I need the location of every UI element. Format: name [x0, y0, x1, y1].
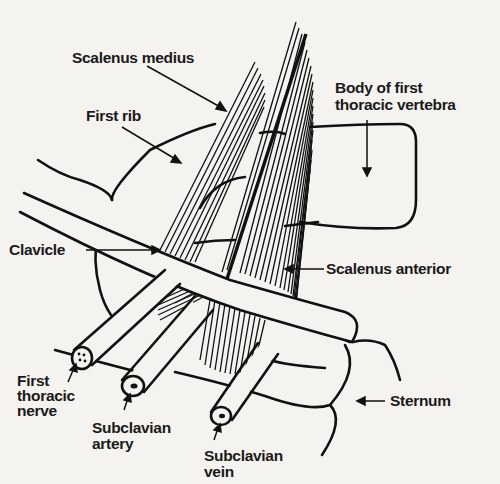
label-body-vertebra-line2: thoracic vertebra — [335, 97, 456, 112]
label-body-vertebra-line1: Body of first — [335, 80, 422, 95]
vertebra-body-shape — [260, 124, 416, 228]
label-first-thoracic-nerve-line1: First — [17, 373, 49, 388]
label-first-thoracic-nerve-line2: thoracic — [17, 388, 75, 403]
label-first-thoracic-nerve-line3: nerve — [17, 403, 57, 418]
label-first-rib: First rib — [86, 108, 141, 123]
label-scalenus-anterior: Scalenus anterior — [326, 261, 451, 276]
label-sternum: Sternum — [390, 393, 451, 408]
label-clavicle: Clavicle — [9, 242, 65, 257]
label-subclavian-artery-line1: Subclavian — [92, 420, 171, 435]
label-subclavian-vein-line1: Subclavian — [204, 448, 283, 463]
label-scalenus-medius: Scalenus medius — [72, 50, 194, 65]
anatomy-drawing — [0, 0, 500, 484]
anatomy-diagram: Scalenus medius First rib Body of first … — [0, 0, 500, 484]
label-subclavian-vein-line2: vein — [204, 464, 234, 479]
label-subclavian-artery-line2: artery — [92, 436, 133, 451]
